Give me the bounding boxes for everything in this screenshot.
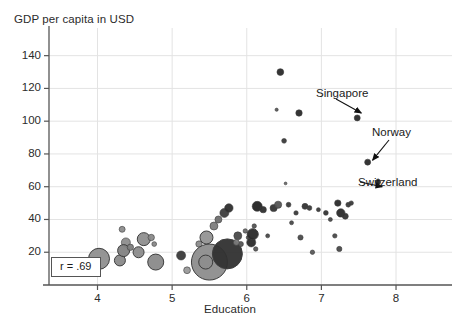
y-tick-label: 40 (11, 212, 41, 224)
y-tick-label: 60 (11, 180, 41, 192)
y-tick-label: 140 (11, 49, 41, 61)
bubble-chart: GDP per capita in USD Education 20406080… (0, 0, 460, 329)
x-axis-title: Education (204, 303, 256, 315)
y-axis-title: GDP per capita in USD (14, 13, 134, 25)
x-tick-label: 4 (88, 292, 108, 304)
annotation-arrows (336, 99, 389, 187)
x-tick-label: 6 (237, 292, 257, 304)
x-tick-label: 5 (162, 292, 182, 304)
plot-area (0, 0, 460, 329)
y-tick-label: 120 (11, 81, 41, 93)
y-tick-label: 20 (11, 245, 41, 257)
axis-lines (43, 26, 452, 285)
annotation-label-norway: Norway (372, 126, 411, 138)
x-tick-label: 7 (311, 292, 331, 304)
data-points (89, 69, 381, 280)
x-tick-label: 8 (386, 292, 406, 304)
y-tick-label: 100 (11, 114, 41, 126)
annotation-label-singapore: Singapore (316, 87, 368, 99)
annotation-label-switzerland: Switzerland (358, 176, 417, 188)
y-tick-label: 80 (11, 147, 41, 159)
correlation-badge: r = .69 (51, 257, 101, 277)
